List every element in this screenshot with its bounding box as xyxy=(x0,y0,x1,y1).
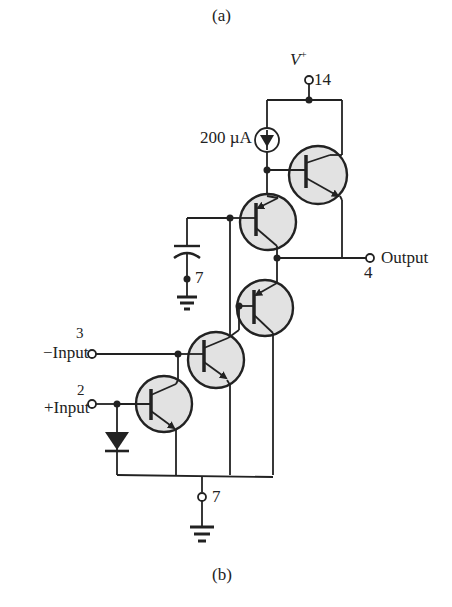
plus-input-label: +Input xyxy=(44,398,89,418)
pin-7-capacitor-label: 7 xyxy=(195,268,204,288)
minus-input-label: −Input xyxy=(43,343,88,363)
current-source-icon xyxy=(255,128,279,174)
pin-4-label: 4 xyxy=(364,263,373,283)
supply-label: V+ xyxy=(290,48,307,70)
transistor-npn-icon xyxy=(178,330,244,388)
transistor-npn-icon xyxy=(117,376,192,475)
ground-icon xyxy=(177,297,197,309)
diode-icon xyxy=(105,404,129,475)
pin-3-label: 3 xyxy=(76,325,84,342)
plus-input-terminal xyxy=(88,400,121,408)
transistor-pnp-icon xyxy=(237,258,293,475)
current-source-label: 200 µA xyxy=(200,128,252,148)
ground-icon xyxy=(190,527,214,541)
output-label: Output xyxy=(381,248,428,268)
op-amp-schematic xyxy=(0,0,452,607)
pin-14-label: 14 xyxy=(314,70,331,90)
output-node xyxy=(274,254,375,262)
supply-terminal xyxy=(305,76,313,100)
ground-bus xyxy=(117,475,273,526)
figure-caption-b: (b) xyxy=(212,565,232,585)
supply-label-sup: + xyxy=(300,48,306,60)
transistor-pnp-icon xyxy=(230,194,296,258)
pin-7-bottom-label: 7 xyxy=(212,487,221,507)
supply-label-text: V xyxy=(290,50,300,69)
pin-2-label: 2 xyxy=(77,382,85,399)
figure-caption-a: (a) xyxy=(212,6,231,26)
